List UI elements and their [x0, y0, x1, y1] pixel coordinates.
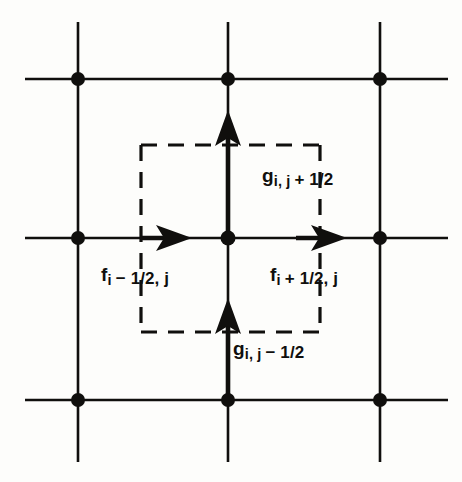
grid-node: [221, 72, 235, 86]
grid-node: [221, 231, 236, 246]
flux-subscript-f-left: i − 1/2, j: [108, 272, 170, 288]
flux-subscript-f-right: i + 1/2, j: [277, 272, 339, 288]
grid-node: [373, 72, 387, 86]
flux-subscript-g-top: i, j + 1/2: [274, 173, 333, 189]
arrow-f-right: [296, 225, 347, 251]
grid-node: [71, 231, 85, 245]
flux-symbol-g-top: g: [262, 165, 274, 186]
flux-label-f-right: fi + 1/2, j: [270, 265, 338, 288]
grid-node: [373, 231, 387, 245]
grid-node: [71, 393, 85, 407]
grid-node: [373, 393, 387, 407]
flux-label-g-top: gi, j + 1/2: [262, 166, 333, 189]
flux-label-f-left: fi − 1/2, j: [101, 265, 169, 288]
arrow-f-left: [141, 225, 192, 251]
grid-node: [221, 393, 235, 407]
staggered-grid-flux-diagram: gi, j + 1/2 gi, j − 1/2 fi − 1/2, j fi +…: [0, 0, 462, 482]
flux-subscript-g-bottom: i, j − 1/2: [245, 346, 304, 362]
flux-label-g-bottom: gi, j − 1/2: [233, 339, 304, 362]
arrow-g-top: [215, 110, 241, 238]
diagram-canvas: [0, 0, 462, 482]
grid-node: [71, 72, 85, 86]
flux-symbol-g-bottom: g: [233, 338, 245, 359]
